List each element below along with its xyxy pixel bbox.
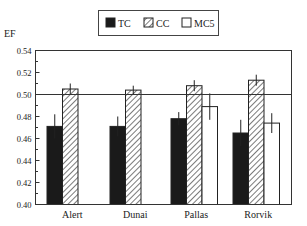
x-tick-label: Dunai — [123, 209, 148, 220]
y-tick-label: 0.42 — [17, 178, 32, 188]
legend-label: MC5 — [194, 18, 215, 29]
bar-group-pallas — [171, 80, 218, 204]
bar-cc — [249, 80, 265, 204]
legend-item-cc: CC — [144, 18, 170, 29]
y-tick-label: 0.44 — [17, 156, 33, 166]
y-tick-label: 0.48 — [17, 112, 32, 122]
bar-mc5 — [202, 107, 218, 205]
y-axis-label: EF — [4, 28, 16, 39]
legend-swatch — [106, 18, 115, 27]
bar-cc — [126, 90, 142, 204]
legend-label: CC — [156, 18, 170, 29]
bar-mc5 — [264, 123, 280, 204]
bar-group-dunai — [110, 86, 141, 205]
y-tick-label: 0.46 — [17, 134, 32, 144]
y-tick-label: 0.52 — [17, 68, 32, 78]
legend-swatch — [144, 18, 153, 27]
y-tick-label: 0.40 — [17, 200, 32, 210]
y-tick-label: 0.50 — [17, 90, 32, 100]
y-tick-label: 0.54 — [17, 46, 33, 56]
y-axis: 0.400.420.440.460.480.500.520.54 — [17, 46, 40, 210]
x-axis: AlertDunaiPallasRorvik — [62, 209, 272, 220]
legend-label: TC — [118, 18, 131, 29]
legend-item-tc: TC — [106, 18, 131, 29]
bar-group-alert — [47, 84, 78, 205]
bar-tc — [110, 126, 126, 204]
x-tick-label: Alert — [62, 209, 83, 220]
x-tick-label: Rorvik — [244, 209, 272, 220]
bar-chart: TCCCMC5 EF 0.400.420.440.460.480.500.520… — [0, 0, 307, 226]
legend-swatch — [182, 18, 191, 27]
bar-cc — [187, 86, 203, 205]
legend-item-mc5: MC5 — [182, 18, 215, 29]
bar-tc — [171, 119, 187, 205]
legend: TCCCMC5 — [99, 11, 219, 36]
bar-cc — [63, 89, 79, 205]
x-tick-label: Pallas — [184, 209, 208, 220]
